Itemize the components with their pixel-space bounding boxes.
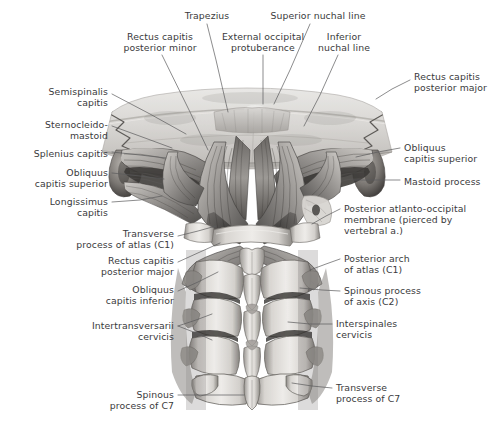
label-semispinalis-capitis: Semispinalis capitis bbox=[18, 86, 108, 108]
label-obliquus-cap-inf: Obliquus capitis inferior bbox=[64, 284, 174, 306]
trapezius-muscle bbox=[214, 108, 290, 134]
spinous-process-column bbox=[244, 274, 261, 382]
label-trapezius: Trapezius bbox=[176, 10, 238, 21]
label-interspinales: Interspinales cervicis bbox=[336, 318, 420, 340]
label-inferior-nuchal-line: Inferior nuchal line bbox=[312, 31, 376, 53]
cervical-spine bbox=[181, 223, 324, 410]
label-posterior-arch-atlas: Posterior arch of atlas (C1) bbox=[344, 253, 434, 275]
label-sternocleidomastoid: Sternocleido- mastoid bbox=[18, 119, 108, 141]
label-transverse-atlas: Transverse process of atlas (C1) bbox=[28, 228, 174, 250]
label-superior-nuchal-line: Superior nuchal line bbox=[262, 10, 374, 21]
anatomy-figure: TrapeziusRectus capitis posterior minorE… bbox=[0, 0, 494, 424]
label-posterior-ao-membrane: Posterior atlanto-occipital membrane (pi… bbox=[344, 203, 490, 237]
label-intertransversarii: Intertransversarii cervicis bbox=[60, 320, 174, 342]
label-spinous-process-axis: Spinous process of axis (C2) bbox=[344, 285, 440, 307]
label-rectus-post-major-l: Rectus capitis posterior major bbox=[60, 255, 174, 277]
label-obliquus-cap-sup-r: Obliquus capitis superior bbox=[404, 142, 492, 164]
label-rectus-post-major-r: Rectus capitis posterior major bbox=[414, 71, 492, 93]
label-external-occ-prot: External occipital protuberance bbox=[213, 31, 313, 53]
label-splenius-capitis: Splenius capitis bbox=[10, 148, 108, 159]
label-rectus-post-minor: Rectus capitis posterior minor bbox=[112, 31, 208, 53]
label-transverse-process-c7: Transverse process of C7 bbox=[336, 382, 432, 404]
label-mastoid-process: Mastoid process bbox=[404, 176, 492, 187]
label-longissimus-capitis: Longissimus capitis bbox=[18, 196, 108, 218]
posterior-atlanto-occipital-membrane bbox=[302, 196, 332, 226]
label-obliquus-cap-sup-l: Obliquus capitis superior bbox=[14, 167, 108, 189]
label-spinous-process-c7: Spinous process of C7 bbox=[80, 389, 174, 411]
